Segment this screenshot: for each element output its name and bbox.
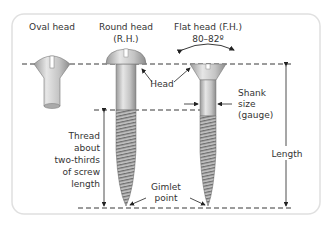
label-round-head: Round head [99,22,153,32]
screw-diagram: Oval head Round head (R.H.) Flat head (F… [0,0,328,227]
label-shank: Shank [238,88,267,98]
label-flat-angle: 80–82º [192,34,224,44]
label-flat-head: Flat head (F.H.) [174,22,242,32]
label-thread-4: of screw [62,167,100,177]
label-thread-5: length [71,179,100,189]
label-length: Length [271,149,302,159]
label-gimlet: Gimlet [151,182,181,192]
label-shank-size: size [238,99,256,109]
label-head: Head [150,79,174,89]
label-thread-3: two-thirds [55,155,101,165]
label-oval-head: Oval head [29,22,75,32]
label-thread-2: about [74,143,100,153]
label-gimlet-point: point [155,193,178,203]
label-shank-gauge: (gauge) [238,110,273,120]
label-thread-1: Thread [68,131,100,141]
diagram-canvas: Oval head Round head (R.H.) Flat head (F… [0,0,328,227]
label-round-head-abbr: (R.H.) [113,34,138,44]
